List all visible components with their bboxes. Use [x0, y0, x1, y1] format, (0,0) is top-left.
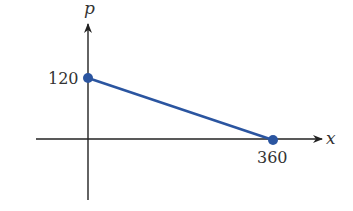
point-x-intercept	[268, 135, 278, 145]
data-line	[88, 78, 273, 140]
y-intercept-label: 120	[48, 69, 79, 88]
x-intercept-label: 360	[257, 148, 288, 167]
x-axis-label: x	[326, 128, 336, 148]
point-y-intercept	[83, 73, 93, 83]
y-axis-label: p	[84, 0, 95, 18]
chart: p x 120 360	[0, 0, 353, 211]
